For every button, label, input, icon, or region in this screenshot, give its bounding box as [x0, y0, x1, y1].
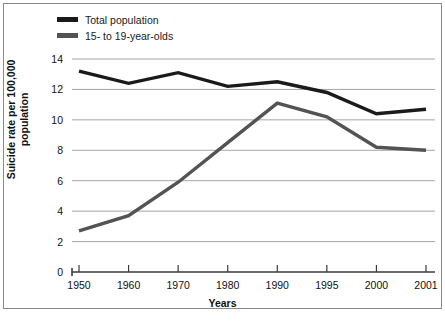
- y-axis-title-line1: Suicide rate per 100,000: [5, 60, 17, 180]
- x-axis-title: Years: [0, 297, 445, 309]
- y-tick-label-14: 14: [37, 54, 63, 64]
- x-tick-marks: [79, 265, 426, 272]
- series-line-0: [79, 71, 426, 114]
- y-tick-label-12: 12: [37, 84, 63, 94]
- y-tick-label-8: 8: [37, 145, 63, 155]
- y-tick-label-0: 0: [37, 267, 63, 277]
- x-tick-label-1980: 1980: [205, 280, 251, 291]
- x-tick-label-1995: 1995: [304, 280, 350, 291]
- y-tick-label-10: 10: [37, 115, 63, 125]
- y-tick-label-4: 4: [37, 206, 63, 216]
- axis-lines: [72, 268, 435, 276]
- x-tick-label-1950: 1950: [56, 280, 102, 291]
- chart-figure: Total population 15- to 19-year-olds 024…: [0, 0, 445, 324]
- x-tick-label-1960: 1960: [106, 280, 152, 291]
- x-tick-label-2001: 2001: [403, 280, 445, 291]
- x-tick-label-1970: 1970: [155, 280, 201, 291]
- y-tick-label-2: 2: [37, 237, 63, 247]
- data-series-lines: [79, 71, 426, 231]
- y-axis-title: Suicide rate per 100,000 population: [5, 40, 30, 200]
- plot-canvas: [0, 0, 445, 324]
- y-tick-label-6: 6: [37, 176, 63, 186]
- series-line-1: [79, 103, 426, 231]
- y-gridlines: [72, 59, 435, 242]
- plot-area: 02468101214 1950196019701980199019952000…: [0, 0, 445, 324]
- y-axis-title-line2: population: [17, 93, 29, 147]
- x-tick-label-1990: 1990: [254, 280, 300, 291]
- x-tick-label-2000: 2000: [353, 280, 399, 291]
